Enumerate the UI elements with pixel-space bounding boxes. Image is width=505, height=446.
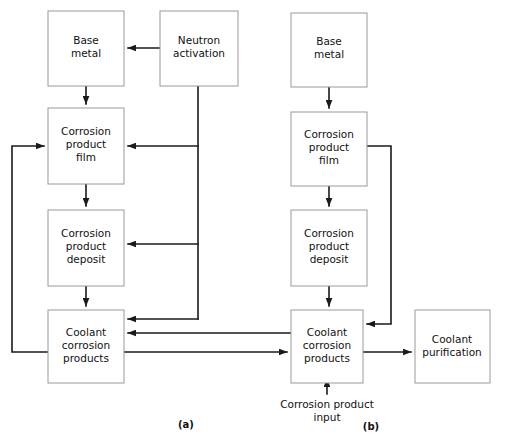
edge-a-coolant-to-film	[12, 146, 48, 352]
caption-panel-a: (a)	[178, 419, 194, 430]
box-a-neutron-activation-line-0: Neutron	[178, 34, 220, 46]
box-b-film-line-2: film	[319, 154, 339, 166]
box-b-purify-line-1: purification	[422, 346, 482, 358]
diagram-canvas: Base metal Neutron activation Corrosion …	[0, 0, 505, 446]
box-a-neutron-activation[interactable]: Neutron activation	[160, 11, 238, 86]
box-b-coolant-line-0: Coolant	[307, 326, 347, 338]
box-a-base-metal-line-1: metal	[71, 47, 101, 59]
box-b-base-metal[interactable]: Base metal	[291, 13, 367, 87]
box-b-film-line-0: Corrosion	[304, 128, 354, 140]
label-corrosion-product-input-line-0: Corrosion product	[280, 398, 374, 410]
box-b-base-metal-line-0: Base	[316, 35, 342, 47]
box-b-coolant-corrosion-products[interactable]: Coolant corrosion products	[291, 310, 363, 383]
caption-panel-b: (b)	[363, 421, 379, 432]
box-a-film-line-0: Corrosion	[61, 125, 111, 137]
box-b-base-metal-line-1: metal	[314, 48, 344, 60]
free-labels: Corrosion product input	[280, 398, 374, 423]
box-a-film-line-2: film	[76, 151, 96, 163]
panel-a-boxes: Base metal Neutron activation Corrosion …	[48, 11, 238, 383]
box-a-corrosion-product-film[interactable]: Corrosion product film	[48, 108, 124, 184]
box-a-base-metal-line-0: Base	[73, 34, 99, 46]
box-a-film-line-1: product	[66, 138, 106, 150]
box-a-corrosion-product-deposit[interactable]: Corrosion product deposit	[48, 210, 124, 286]
box-a-base-metal[interactable]: Base metal	[48, 11, 124, 86]
cross-panel-connectors	[124, 333, 291, 352]
box-b-coolant-purification[interactable]: Coolant purification	[415, 310, 490, 383]
panel-captions: (a) (b)	[178, 419, 379, 432]
box-b-film-line-1: product	[309, 141, 349, 153]
box-b-purify-line-0: Coolant	[432, 333, 472, 345]
box-a-coolant-line-2: products	[63, 352, 109, 364]
edge-b-film-to-coolant	[367, 146, 391, 324]
box-b-deposit-line-1: product	[309, 240, 349, 252]
box-a-coolant-line-1: corrosion	[62, 339, 110, 351]
box-a-deposit-line-1: product	[66, 240, 106, 252]
box-a-neutron-activation-line-1: activation	[173, 47, 225, 59]
box-b-corrosion-product-deposit[interactable]: Corrosion product deposit	[291, 210, 367, 286]
panel-a-connectors	[12, 48, 198, 352]
box-b-deposit-line-2: deposit	[310, 253, 349, 265]
box-a-coolant-line-0: Coolant	[66, 326, 106, 338]
box-b-coolant-line-1: corrosion	[303, 339, 351, 351]
flow-diagram-figure: Base metal Neutron activation Corrosion …	[0, 0, 505, 446]
box-b-coolant-line-2: products	[304, 352, 350, 364]
box-a-coolant-corrosion-products[interactable]: Coolant corrosion products	[48, 310, 124, 383]
box-a-deposit-line-2: deposit	[67, 253, 106, 265]
label-corrosion-product-input-line-1: input	[313, 411, 340, 423]
box-b-deposit-line-0: Corrosion	[304, 227, 354, 239]
box-b-corrosion-product-film[interactable]: Corrosion product film	[291, 112, 367, 186]
box-a-deposit-line-0: Corrosion	[61, 227, 111, 239]
